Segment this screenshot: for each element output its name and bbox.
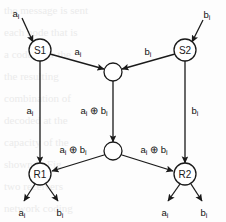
edge-label-edge-x1-x2: ai ⊕ bi [81, 105, 108, 117]
input-label-input-b-right: bi [204, 9, 211, 21]
node-r1: R1 [29, 163, 51, 185]
edge-r2-out-b [191, 184, 202, 201]
edge-r1-out-b [46, 184, 58, 201]
node-s1: S1 [29, 39, 51, 61]
node-x1 [104, 63, 122, 81]
node-label: R1 [34, 169, 47, 180]
edge-in-b-to-s2 [192, 20, 203, 42]
node-r2: R2 [174, 163, 196, 185]
edge-label-edge-x2-r1: ai ⊕ bi [60, 144, 87, 156]
edge-in-a-to-s1 [22, 18, 33, 42]
node-circle [104, 142, 122, 160]
butterfly-network-diagram: S1S2R1R2 aibiaibiai ⊕ biai ⊕ biai ⊕ biai… [0, 0, 226, 222]
input-label-input-a-left: ai [13, 8, 20, 20]
edge-label-edge-s2-x1: bi [145, 46, 152, 58]
output-label-output-r2-b: bi [201, 207, 208, 219]
network-coding-figure: the message is senteach node that isa co… [0, 0, 226, 222]
edge-r2-out-a [168, 184, 180, 201]
node-label: S2 [179, 45, 192, 56]
edge-label-edge-x2-r2: ai ⊕ bi [141, 144, 168, 156]
edge-label-edge-s1-x1: ai [75, 46, 82, 58]
output-label-output-r2-a: ai [162, 207, 169, 219]
node-s2: S2 [174, 39, 196, 61]
node-x2 [104, 142, 122, 160]
node-circle [104, 63, 122, 81]
edge-label-edge-s1-r1: ai [27, 105, 34, 117]
node-label: R2 [179, 169, 192, 180]
output-label-output-r1-b: bi [57, 207, 64, 219]
output-label-output-r1-a: ai [19, 207, 26, 219]
edge-r1-out-a [24, 184, 35, 201]
edge-x2-to-r1 [52, 155, 104, 171]
edge-x2-to-r2 [122, 155, 173, 171]
edge-label-edge-s2-r2: bi [192, 105, 199, 117]
node-label: S1 [34, 45, 47, 56]
